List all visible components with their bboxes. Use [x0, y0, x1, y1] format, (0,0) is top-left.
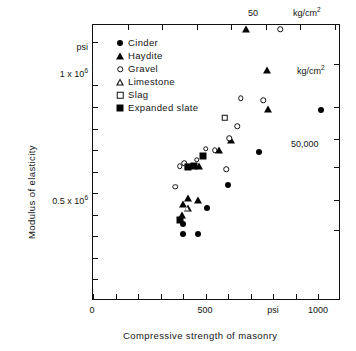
data-point-haydite — [264, 106, 272, 113]
data-point-gravel — [238, 96, 244, 102]
axis-tick — [93, 193, 98, 194]
axis-tick — [93, 85, 98, 86]
y-right-unit-label: kg/cm2 — [297, 66, 325, 76]
legend-item-gravel[interactable]: Gravel — [112, 62, 198, 75]
axis-tick — [266, 25, 267, 30]
axis-tick — [93, 107, 98, 108]
data-point-expanded-slate — [176, 217, 183, 224]
axis-tick — [273, 294, 274, 299]
axis-tick — [206, 294, 207, 299]
axis-tick — [334, 230, 339, 231]
data-point-slag — [222, 114, 229, 121]
axis-tick — [231, 25, 232, 30]
data-point-gravel — [173, 184, 179, 190]
axis-tick — [93, 258, 98, 259]
data-point-expanded-slate — [184, 164, 191, 171]
filled-square-icon — [112, 101, 128, 114]
data-point-gravel — [227, 135, 233, 141]
data-point-cinder — [256, 149, 262, 155]
y-unit-psi-label: psi — [64, 42, 88, 52]
x-tick-0-label: 0 — [89, 305, 94, 315]
axis-tick — [93, 279, 98, 280]
open-circle-icon — [112, 62, 128, 75]
open-square-icon — [112, 88, 128, 101]
y-right-value-label: 50,000 — [291, 139, 319, 149]
axis-tick — [251, 294, 252, 299]
axis-tick — [183, 294, 184, 299]
legend-item-cinder[interactable]: Cinder — [112, 36, 198, 49]
axis-tick — [334, 167, 339, 168]
axis-tick — [93, 129, 98, 130]
legend-item-label: Gravel — [128, 63, 158, 74]
data-point-gravel — [203, 146, 209, 152]
legend-item-label: Slag — [128, 89, 148, 100]
legend-item-haydite[interactable]: Haydite — [112, 49, 198, 62]
open-triangle-icon — [112, 75, 128, 88]
data-point-cinder — [204, 205, 210, 211]
filled-circle-icon — [112, 36, 128, 49]
axis-tick — [318, 294, 319, 299]
axis-tick — [334, 200, 339, 201]
y-tick-1e6-label: 1 x 106 — [40, 69, 88, 79]
legend-item-slag[interactable]: Slag — [112, 88, 198, 101]
axis-tick — [93, 215, 98, 216]
axis-tick — [128, 25, 129, 30]
data-point-gravel — [212, 147, 218, 153]
axis-tick — [93, 172, 98, 173]
data-point-cinder — [318, 107, 324, 113]
data-point-expanded-slate — [191, 162, 198, 169]
data-point-gravel — [235, 124, 241, 130]
data-point-gravel — [277, 27, 283, 33]
data-point-gravel — [223, 166, 229, 172]
data-point-haydite — [242, 26, 250, 33]
data-point-gravel — [177, 163, 183, 169]
data-point-expanded-slate — [200, 153, 207, 160]
data-point-cinder — [225, 182, 231, 188]
axis-tick — [335, 25, 336, 30]
data-point-gravel — [260, 98, 266, 104]
axis-tick — [93, 150, 98, 151]
data-point-haydite — [263, 67, 271, 74]
axis-tick — [296, 294, 297, 299]
x-tick-psi-label: psi — [267, 305, 279, 315]
legend-item-expanded-slate[interactable]: Expanded slate — [112, 101, 198, 114]
axis-tick — [93, 236, 98, 237]
axis-tick — [116, 294, 117, 299]
x-tick-1000-label: 1000 — [308, 305, 328, 315]
axis-tick — [228, 294, 229, 299]
filled-triangle-icon — [112, 49, 128, 62]
axis-tick — [197, 25, 198, 30]
x-top-unit-label: kg/cm2 — [293, 8, 321, 18]
legend-item-label: Cinder — [128, 37, 158, 48]
legend-item-limestone[interactable]: Limestone — [112, 75, 198, 88]
axis-tick — [300, 25, 301, 30]
legend-item-label: Haydite — [128, 50, 163, 61]
axis-tick — [93, 294, 94, 299]
axis-tick — [334, 107, 339, 108]
data-point-cinder — [180, 231, 186, 237]
legend-item-label: Expanded slate — [128, 102, 198, 113]
x-tick-500-label: 500 — [197, 305, 212, 315]
y-tick-5e5-label: 0.5 x 106 — [30, 196, 88, 206]
legend-item-label: Limestone — [128, 76, 175, 87]
data-point-cinder — [195, 231, 201, 237]
scatter-chart: 50 kg/cm2 kg/cm2 50,000 psi 1 x 106 0.5 … — [0, 0, 356, 351]
axis-tick — [334, 64, 339, 65]
axis-tick — [161, 294, 162, 299]
axis-tick — [93, 42, 98, 43]
legend: CinderHayditeGravelLimestoneSlagExpanded… — [112, 36, 198, 114]
axis-tick — [162, 25, 163, 30]
axis-tick — [138, 294, 139, 299]
axis-tick — [334, 139, 339, 140]
x-top-value-label: 50 — [248, 8, 258, 18]
x-axis-title: Compressive strength of masonry — [123, 330, 277, 341]
data-point-haydite — [194, 196, 202, 203]
data-point-limestone — [184, 204, 192, 211]
y-axis-title: Modulus of elasticity — [26, 145, 37, 239]
